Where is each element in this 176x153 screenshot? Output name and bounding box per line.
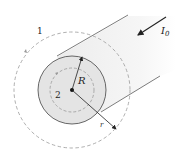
label-R: R [77, 75, 86, 86]
label-loop-2: 2 [55, 90, 61, 100]
label-loop-1: 1 [37, 26, 43, 36]
label-current-sub: 0 [165, 30, 170, 38]
label-r: r [100, 121, 104, 129]
cylinder-diagram: 1 2 R r I0 [0, 0, 176, 153]
loop-1-arrow-icon [24, 49, 27, 53]
